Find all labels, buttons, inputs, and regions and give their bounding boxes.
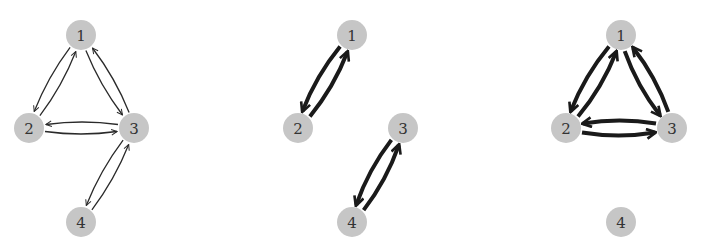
graph-node-3: 3 <box>657 113 687 143</box>
graph-node-4: 4 <box>606 207 636 237</box>
edges <box>34 47 129 210</box>
graph-node-4: 4 <box>337 207 367 237</box>
node-label: 3 <box>667 120 677 138</box>
edges <box>571 47 669 136</box>
node-label: 2 <box>24 120 34 138</box>
edge-4-to-3 <box>92 145 129 210</box>
edge-2-to-1 <box>40 52 76 116</box>
graph-node-4: 4 <box>66 207 96 237</box>
graph-node-2: 2 <box>14 113 44 143</box>
node-label: 1 <box>347 27 357 45</box>
edge-2-to-3 <box>582 133 655 136</box>
node-label: 4 <box>616 214 626 232</box>
node-label: 3 <box>129 120 139 138</box>
graph-node-3: 3 <box>119 113 149 143</box>
edge-3-to-2 <box>583 121 656 124</box>
graph-panel-full: 1234 <box>14 20 149 237</box>
edge-2-to-3 <box>45 132 117 135</box>
graph-panel-triangle: 1234 <box>551 20 687 237</box>
node-label: 3 <box>398 120 408 138</box>
edge-3-to-1 <box>93 48 130 112</box>
graph-node-1: 1 <box>66 20 96 50</box>
node-label: 2 <box>561 120 571 138</box>
edge-1-to-2 <box>34 47 70 111</box>
graph-node-1: 1 <box>606 20 636 50</box>
edges <box>303 47 399 211</box>
graph-node-3: 3 <box>388 113 418 143</box>
node-label: 1 <box>616 27 626 45</box>
node-label: 4 <box>347 214 357 232</box>
graph-panel-pairs: 1234 <box>283 20 418 237</box>
node-label: 4 <box>76 214 86 232</box>
edge-1-to-3 <box>86 51 123 115</box>
graph-node-2: 2 <box>283 113 313 143</box>
edge-3-to-2 <box>46 122 118 125</box>
node-label: 1 <box>76 27 86 45</box>
graph-node-1: 1 <box>337 20 367 50</box>
edge-3-to-4 <box>86 140 123 205</box>
diagram-canvas: 1234 1234 1234 <box>0 0 708 247</box>
node-label: 2 <box>293 120 303 138</box>
graph-node-2: 2 <box>551 113 581 143</box>
